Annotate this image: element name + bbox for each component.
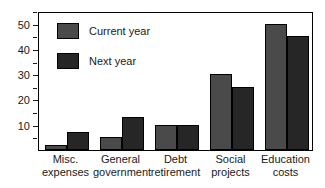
legend-label: Next year (89, 56, 136, 67)
x-axis-tick-label-line: Debt (148, 153, 203, 166)
y-axis-minor-tick (33, 63, 37, 64)
x-axis-tick-label: Misc.expenses (38, 153, 93, 179)
y-axis-minor-tick (33, 12, 37, 13)
x-axis-tick-label-line: General (93, 153, 148, 166)
bar (177, 125, 199, 150)
bar (122, 117, 144, 150)
bar (232, 87, 254, 150)
x-axis-tick-label: Debtretirement (148, 153, 203, 179)
y-axis-tick-label: 40 (6, 44, 30, 55)
legend-swatch (57, 53, 79, 69)
bar (45, 145, 67, 150)
y-axis: 1020304050 (4, 0, 30, 188)
bar (67, 132, 89, 150)
legend-label: Current year (89, 26, 150, 37)
bar-group (149, 13, 204, 150)
bar (265, 24, 287, 150)
y-axis-minor-tick (33, 113, 37, 114)
y-axis-minor-tick (33, 88, 37, 89)
y-axis-tick-label: 10 (6, 120, 30, 131)
bar (287, 36, 309, 150)
x-axis-tick-label: Generalgovernment (93, 153, 148, 179)
plot-frame: Current yearNext year (38, 12, 313, 151)
y-axis-minor-tick (33, 37, 37, 38)
legend-entry: Current year (57, 23, 150, 39)
bar-group (204, 13, 259, 150)
x-axis-tick-label-line: Social (203, 153, 258, 166)
bar (100, 137, 122, 150)
bar (210, 74, 232, 150)
x-axis-tick-label-line: Education (258, 153, 313, 166)
bar (155, 125, 177, 150)
y-axis-tick-label: 30 (6, 70, 30, 81)
x-axis-tick-label-line: expenses (38, 166, 93, 179)
legend: Current yearNext year (57, 23, 150, 83)
x-axis-tick-label: Socialprojects (203, 153, 258, 179)
x-axis-tick-label-line: Misc. (38, 153, 93, 166)
x-axis-tick-label-line: government (93, 166, 148, 179)
legend-swatch (57, 23, 79, 39)
x-axis-tick-label-line: projects (203, 166, 258, 179)
x-axis-tick-label-line: retirement (148, 166, 203, 179)
legend-entry: Next year (57, 53, 150, 69)
y-axis-minor-tick (33, 138, 37, 139)
bar-group (259, 13, 314, 150)
y-axis-tick-label: 20 (6, 95, 30, 106)
x-axis-tick-label-line: costs (258, 166, 313, 179)
y-axis-tick-label: 50 (6, 19, 30, 30)
x-axis-labels: Misc.expensesGeneralgovernmentDebtretire… (38, 153, 313, 187)
bar-chart: 1020304050 Current yearNext year Misc.ex… (0, 0, 325, 188)
x-axis-tick-label: Educationcosts (258, 153, 313, 179)
